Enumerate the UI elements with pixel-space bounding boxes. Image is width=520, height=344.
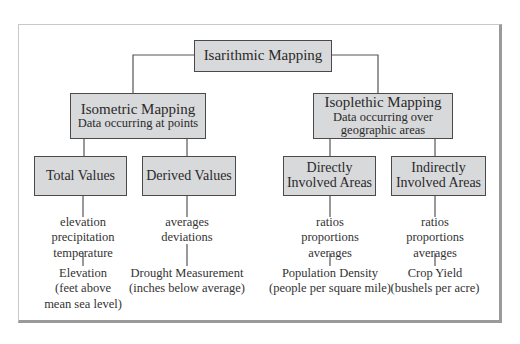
example-line: Crop Yield (380, 266, 490, 281)
node-label-line2: Involved Areas (396, 176, 481, 191)
example-line: Elevation (33, 266, 133, 281)
data-type: proportions (275, 230, 385, 245)
node-subtitle-line2: geographic areas (341, 124, 425, 137)
data-type: averages (380, 246, 490, 261)
data-types-total-values: elevation precipitation temperature (33, 215, 133, 261)
data-type: deviations (132, 230, 242, 245)
data-type: elevation (33, 215, 133, 230)
example-line: (people per square mile) (265, 281, 395, 296)
example-line: Drought Measurement (127, 266, 247, 281)
data-type: temperature (33, 246, 133, 261)
data-types-directly-involved: ratios proportions averages (275, 215, 385, 261)
example-line: (feet above (33, 281, 133, 296)
data-types-indirectly-involved: ratios proportions averages (380, 215, 490, 261)
data-type: averages (132, 215, 242, 230)
data-type: ratios (380, 215, 490, 230)
node-title: Isoplethic Mapping (324, 95, 441, 111)
example-line: (bushels per acre) (380, 281, 490, 296)
node-label: Total Values (46, 169, 115, 184)
node-label-line1: Indirectly (411, 161, 465, 176)
node-isometric-mapping: Isometric Mapping Data occurring at poin… (70, 93, 206, 139)
node-directly-involved-areas: Directly Involved Areas (283, 156, 376, 196)
node-label-line2: Involved Areas (287, 176, 372, 191)
data-types-derived-values: averages deviations (132, 215, 242, 246)
node-title: Isometric Mapping (81, 102, 196, 118)
example-line: (inches below average) (127, 281, 247, 296)
data-type: averages (275, 246, 385, 261)
data-type: precipitation (33, 230, 133, 245)
example-total-values: Elevation (feet above mean sea level) (33, 266, 133, 312)
node-total-values: Total Values (34, 156, 127, 196)
data-type: proportions (380, 230, 490, 245)
node-indirectly-involved-areas: Indirectly Involved Areas (391, 156, 486, 196)
example-line: mean sea level) (33, 297, 133, 312)
data-type: ratios (275, 215, 385, 230)
example-derived-values: Drought Measurement (inches below averag… (127, 266, 247, 297)
node-label: Isarithmic Mapping (204, 48, 323, 64)
node-label: Derived Values (146, 169, 232, 184)
node-isarithmic-mapping: Isarithmic Mapping (194, 40, 332, 72)
node-subtitle-line1: Data occurring over (333, 111, 433, 124)
node-derived-values: Derived Values (142, 156, 236, 196)
node-subtitle: Data occurring at points (78, 117, 198, 130)
example-indirectly-involved: Crop Yield (bushels per acre) (380, 266, 490, 297)
example-line: Population Density (265, 266, 395, 281)
node-label-line1: Directly (307, 161, 353, 176)
example-directly-involved: Population Density (people per square mi… (265, 266, 395, 297)
node-isoplethic-mapping: Isoplethic Mapping Data occurring over g… (313, 93, 453, 139)
